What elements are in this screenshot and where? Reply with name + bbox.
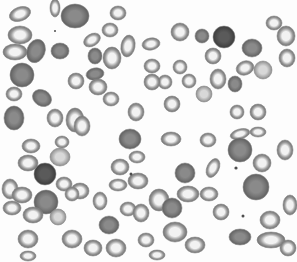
red-blood-cell	[266, 16, 282, 30]
red-blood-cell-darkest	[213, 26, 235, 48]
red-blood-cell	[18, 155, 38, 171]
red-blood-cell	[110, 6, 126, 20]
red-blood-cell-dark	[88, 48, 102, 64]
red-blood-cell	[200, 133, 216, 147]
red-blood-cell-light	[254, 61, 272, 79]
red-blood-cell	[144, 59, 160, 73]
red-blood-cell	[12, 187, 32, 203]
red-blood-cell	[203, 156, 222, 179]
red-blood-cell	[129, 151, 145, 163]
red-blood-cell	[111, 159, 129, 175]
red-blood-cell-dark	[29, 86, 54, 110]
red-blood-cell	[177, 186, 199, 202]
red-blood-cell	[250, 127, 266, 137]
red-blood-cell	[213, 204, 229, 220]
red-blood-cell-field	[0, 0, 297, 262]
red-blood-cell	[250, 104, 266, 120]
red-blood-cell	[210, 69, 226, 89]
red-blood-cell	[106, 239, 126, 257]
red-blood-cell-light	[50, 209, 66, 225]
red-blood-cell	[22, 139, 40, 153]
red-blood-cell	[149, 250, 165, 260]
red-blood-cell	[138, 233, 154, 247]
red-blood-cell-dark	[10, 63, 34, 87]
cell-layer	[2, 0, 297, 261]
platelet	[242, 215, 245, 218]
red-blood-cell	[20, 251, 36, 261]
red-blood-cell	[89, 79, 107, 95]
red-blood-cell	[7, 4, 32, 25]
red-blood-cell	[277, 140, 293, 160]
red-blood-cell	[81, 30, 103, 49]
red-blood-cell	[119, 34, 137, 58]
red-blood-cell-dark	[175, 163, 195, 183]
red-blood-cell-light	[196, 86, 212, 102]
platelet	[130, 173, 133, 176]
blood-smear-image	[0, 0, 297, 262]
red-blood-cell	[103, 47, 121, 69]
red-blood-cell-dark	[51, 43, 69, 59]
red-blood-cell	[144, 74, 160, 90]
platelet	[234, 166, 237, 169]
red-blood-cell	[3, 44, 27, 60]
red-blood-cell	[23, 207, 43, 223]
red-blood-cell	[109, 179, 127, 191]
red-blood-cell	[93, 192, 107, 210]
red-blood-cell	[68, 73, 84, 89]
red-blood-cell-dark	[195, 29, 209, 43]
red-blood-cell	[185, 237, 205, 253]
red-blood-cell	[128, 103, 144, 121]
red-blood-cell-dark	[99, 216, 119, 234]
red-blood-cell-dark	[242, 39, 262, 57]
red-blood-cell	[260, 211, 280, 229]
red-blood-cell	[74, 116, 90, 136]
red-blood-cell	[163, 222, 187, 242]
red-blood-cell	[6, 87, 22, 101]
red-blood-cell-dark	[228, 138, 252, 162]
red-blood-cell	[280, 240, 296, 256]
red-blood-cell	[253, 154, 271, 172]
red-blood-cell	[234, 58, 256, 77]
red-blood-cell	[205, 48, 221, 64]
red-blood-cell-dark	[61, 4, 89, 28]
red-blood-cell	[133, 204, 149, 222]
red-blood-cell	[103, 92, 119, 106]
red-blood-cell	[65, 187, 79, 201]
red-blood-cell	[173, 60, 187, 74]
red-blood-cell-dark	[162, 198, 182, 218]
red-blood-cell	[279, 49, 295, 67]
red-blood-cell	[171, 23, 189, 41]
red-blood-cell	[102, 23, 118, 37]
red-blood-cell	[141, 37, 161, 52]
red-blood-cell-dark	[119, 129, 141, 149]
red-blood-cell-dark	[229, 229, 251, 245]
red-blood-cell-dark	[228, 76, 242, 92]
red-blood-cell	[277, 26, 295, 46]
red-blood-cell	[18, 230, 38, 248]
red-blood-cell	[84, 240, 102, 256]
red-blood-cell	[62, 230, 82, 248]
red-blood-cell-darkest	[34, 163, 56, 185]
red-blood-cell	[161, 132, 181, 146]
red-blood-cell-dark	[243, 174, 269, 200]
red-blood-cell	[50, 0, 60, 17]
red-blood-cell	[55, 136, 69, 148]
red-blood-cell	[8, 26, 32, 44]
red-blood-cell-light	[50, 148, 70, 166]
red-blood-cell	[230, 105, 244, 119]
red-blood-cell	[283, 195, 297, 215]
red-blood-cell	[47, 109, 63, 127]
red-blood-cell	[3, 201, 21, 215]
red-blood-cell	[164, 96, 180, 112]
platelet	[54, 30, 56, 32]
red-blood-cell	[200, 187, 218, 201]
red-blood-cell-dark	[4, 106, 24, 130]
red-blood-cell	[182, 74, 196, 88]
